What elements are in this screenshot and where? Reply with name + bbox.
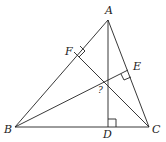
right-angle-d xyxy=(108,119,116,127)
diagram-lines xyxy=(0,0,166,142)
triangle-diagram: A B C D E F ? xyxy=(0,0,166,142)
label-f: F xyxy=(65,46,73,57)
label-e: E xyxy=(133,61,141,72)
label-a: A xyxy=(105,5,113,16)
label-d: D xyxy=(103,129,112,140)
label-b: B xyxy=(4,124,12,135)
altitude-be xyxy=(15,70,128,127)
triangle-abc xyxy=(15,20,149,127)
intersection-question-mark: ? xyxy=(98,86,103,95)
label-c: C xyxy=(152,124,160,135)
